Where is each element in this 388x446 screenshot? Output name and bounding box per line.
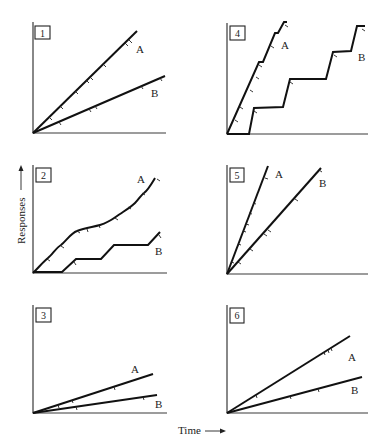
panel-6-axes — [227, 305, 368, 413]
panel-2-curve-b — [33, 232, 160, 272]
panel-2-label-b: B — [155, 245, 162, 257]
panel-2: 2 A B — [33, 165, 167, 273]
panel-1-number: 1 — [40, 28, 45, 39]
panel-5: 5 A B — [227, 165, 368, 274]
panel-3-number: 3 — [41, 310, 46, 321]
panel-3-label-b: B — [155, 398, 162, 410]
x-axis-label: Time — [178, 424, 201, 436]
y-axis-label-group: Responses — [15, 165, 27, 244]
panel-4-label-b: B — [358, 51, 365, 63]
panel-6-curve-b — [227, 377, 362, 413]
x-axis-arrow-icon — [220, 429, 226, 434]
panel-6-reinforcement-marks — [256, 348, 332, 399]
panel-3-curve-a — [33, 374, 153, 413]
panel-6: 6 A B — [227, 305, 368, 413]
panel-4-curve-b — [227, 26, 365, 134]
panel-2-axes — [33, 165, 167, 273]
panel-1-axes — [33, 22, 166, 133]
y-axis-arrow-icon — [19, 165, 24, 171]
panel-3-curve-b — [33, 395, 157, 413]
x-axis-label-group: Time — [178, 424, 226, 436]
panel-1-curve-a — [33, 31, 137, 133]
panel-1: 1 A B — [33, 22, 166, 133]
y-axis-label: Responses — [15, 198, 27, 244]
panel-4-label-a: A — [281, 39, 289, 51]
panel-6-curve-a — [227, 336, 350, 413]
panel-5-label-a: A — [275, 168, 283, 180]
panel-6-number: 6 — [235, 310, 240, 321]
panel-1-reinforcement-marks — [49, 40, 162, 125]
panel-1-label-b: B — [151, 87, 158, 99]
panel-4-number: 4 — [235, 28, 240, 39]
panel-5-label-b: B — [319, 177, 326, 189]
panel-3: 3 A B — [33, 305, 167, 413]
panel-4: 4 A B — [227, 22, 368, 134]
panel-2-number: 2 — [41, 170, 46, 181]
panel-5-number: 5 — [235, 170, 240, 181]
panel-6-label-b: B — [351, 384, 358, 396]
panel-5-curve-b — [227, 168, 321, 274]
panel-3-label-a: A — [131, 363, 139, 375]
panel-6-label-a: A — [348, 351, 356, 363]
panel-1-curve-b — [33, 76, 165, 133]
cumulative-records-figure: 1 A B 4 A B 2 A B — [0, 0, 388, 446]
panel-1-label-a: A — [136, 43, 144, 55]
panel-2-label-a: A — [137, 173, 145, 185]
